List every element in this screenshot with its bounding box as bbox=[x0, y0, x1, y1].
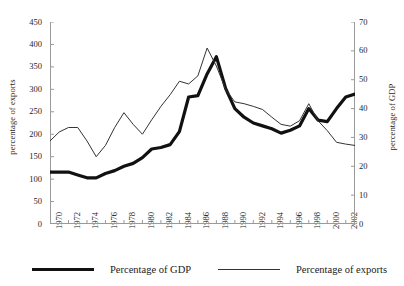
y-tick-left: 150 bbox=[14, 151, 42, 161]
y-tick-right: 60 bbox=[359, 45, 387, 55]
y-tick-right: 30 bbox=[359, 132, 387, 142]
series-lines bbox=[50, 22, 355, 224]
series-line bbox=[50, 48, 355, 157]
y-tick-left: 300 bbox=[14, 84, 42, 94]
y-tick-right: 0 bbox=[359, 219, 387, 229]
y-tick-left: 100 bbox=[14, 174, 42, 184]
legend-item-gdp: Percentage of GDP bbox=[32, 264, 191, 275]
y-tick-right: 20 bbox=[359, 161, 387, 171]
legend-label-exports: Percentage of exports bbox=[296, 264, 387, 275]
y-axis-right-title: percentage of GDP bbox=[387, 67, 397, 167]
legend-swatch-gdp-icon bbox=[32, 268, 94, 271]
y-tick-right: 10 bbox=[359, 190, 387, 200]
chart-figure: percentage of exports percentage of GDP … bbox=[0, 0, 404, 286]
plot-area bbox=[50, 22, 355, 224]
y-tick-left: 200 bbox=[14, 129, 42, 139]
legend-label-gdp: Percentage of GDP bbox=[110, 264, 191, 275]
y-tick-left: 0 bbox=[14, 219, 42, 229]
legend-swatch-exports-icon bbox=[218, 269, 280, 270]
chart-legend: Percentage of GDP Percentage of exports bbox=[0, 258, 404, 286]
y-tick-left: 350 bbox=[14, 61, 42, 71]
y-tick-left: 50 bbox=[14, 196, 42, 206]
legend-item-exports: Percentage of exports bbox=[218, 264, 387, 275]
y-tick-left: 250 bbox=[14, 106, 42, 116]
y-tick-left: 400 bbox=[14, 39, 42, 49]
series-line bbox=[50, 57, 355, 178]
y-tick-left: 450 bbox=[14, 17, 42, 27]
y-tick-right: 50 bbox=[359, 74, 387, 84]
y-tick-right: 70 bbox=[359, 17, 387, 27]
y-tick-right: 40 bbox=[359, 103, 387, 113]
